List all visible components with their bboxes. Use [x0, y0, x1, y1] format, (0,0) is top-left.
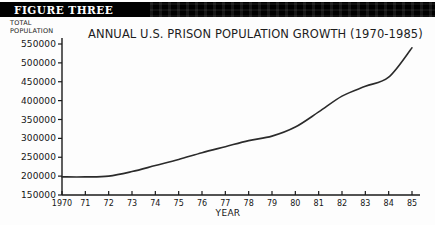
x-tick-label: 72	[104, 199, 114, 208]
x-tick-label: 77	[220, 199, 230, 208]
figure-root: FIGURE THREE TOTAL POPULATION ANNUAL U.S…	[0, 0, 435, 225]
x-tick-label: 79	[267, 199, 277, 208]
chart-plot-area: 5500005000004500004000003500003000002500…	[0, 0, 435, 225]
x-tick-label: 81	[314, 199, 324, 208]
x-tick-label: 84	[384, 199, 394, 208]
y-tick-label: 400000	[4, 96, 56, 106]
x-tick-label: 83	[360, 199, 370, 208]
x-axis-title: YEAR	[216, 208, 241, 218]
y-tick-label: 200000	[4, 171, 56, 181]
y-tick-label: 150000	[4, 190, 56, 200]
y-tick-label: 350000	[4, 115, 56, 125]
y-tick-label: 250000	[4, 152, 56, 162]
x-tick-label: 85	[407, 199, 417, 208]
y-tick-label: 550000	[4, 39, 56, 49]
y-tick-label: 450000	[4, 77, 56, 87]
x-tick-label: 73	[127, 199, 137, 208]
x-tick-label: 71	[80, 199, 90, 208]
x-tick-label: 1970	[52, 199, 72, 208]
x-tick-label: 75	[174, 199, 184, 208]
x-tick-label: 74	[150, 199, 160, 208]
axis-ticks	[58, 44, 412, 195]
x-tick-label: 76	[197, 199, 207, 208]
x-tick-label: 80	[290, 199, 300, 208]
x-tick-label: 82	[337, 199, 347, 208]
line-chart-svg	[0, 0, 435, 225]
x-tick-label: 78	[244, 199, 254, 208]
y-tick-label: 500000	[4, 58, 56, 68]
y-tick-label: 300000	[4, 133, 56, 143]
prison-population-line	[62, 48, 412, 177]
axis-lines	[62, 38, 420, 195]
